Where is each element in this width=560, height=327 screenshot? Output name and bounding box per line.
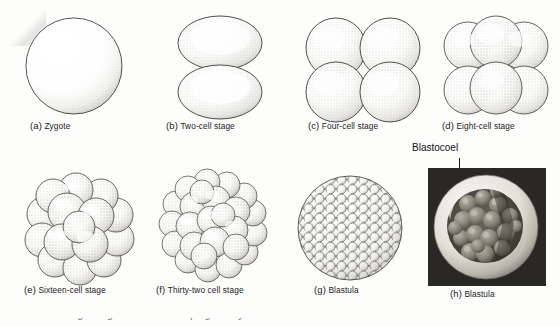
caption-d: (d) Eight-cell stage <box>442 120 515 131</box>
blastula-drawing-illustration <box>292 170 412 290</box>
eight-cell-illustration <box>438 12 558 124</box>
caption-c: (c) Four-cell stage <box>308 120 378 131</box>
panel-g-blastula-drawing: (g) Blastula <box>292 170 412 290</box>
cutoff-body-text: the cleavage stages of the developing em… <box>0 318 560 327</box>
panel-tag-a: (a) <box>30 120 42 131</box>
panel-tag-e: (e) <box>24 284 36 295</box>
panel-tag-h: (h) <box>450 288 462 299</box>
panel-label-e: Sixteen-cell stage <box>38 285 105 295</box>
sixteen-cell-illustration <box>22 172 142 288</box>
caption-b: (b) Two-cell stage <box>166 120 235 131</box>
panel-c-four-cell: (c) Four-cell stage <box>300 12 426 124</box>
caption-h: (h) Blastula <box>450 288 495 299</box>
single-sphere-illustration <box>18 12 138 124</box>
panel-tag-f: (f) <box>156 284 165 295</box>
micrograph-image <box>428 168 546 286</box>
panel-tag-g: (g) <box>314 284 326 295</box>
caption-a: (a) Zygote <box>30 120 70 131</box>
cleavage-stages-figure: (a) Zygote (b) Two-cell stage <box>0 0 560 327</box>
two-cell-illustration <box>162 12 282 124</box>
panel-tag-d: (d) <box>442 120 454 131</box>
panel-label-c: Four-cell stage <box>322 121 378 131</box>
panel-d-eight-cell: (d) Eight-cell stage <box>438 12 558 124</box>
panel-tag-b: (b) <box>166 120 178 131</box>
cutoff-body-text-line: the cleavage stages of the developing em… <box>28 318 431 320</box>
thirtytwo-cell-illustration <box>150 168 280 288</box>
panel-a-zygote: (a) Zygote <box>18 12 138 124</box>
panel-tag-c: (c) <box>308 120 319 131</box>
panel-h-blastula-micrograph: (h) Blastula <box>428 168 554 290</box>
caption-f: (f) Thirty-two cell stage <box>156 284 244 295</box>
panel-f-thirtytwo-cell: (f) Thirty-two cell stage <box>150 168 280 288</box>
panel-label-a: Zygote <box>44 121 70 131</box>
caption-e: (e) Sixteen-cell stage <box>24 284 106 295</box>
panel-b-two-cell: (b) Two-cell stage <box>162 12 282 124</box>
caption-g: (g) Blastula <box>314 284 359 295</box>
panel-label-f: Thirty-two cell stage <box>168 285 244 295</box>
panel-label-g: Blastula <box>328 285 358 295</box>
blastocoel-label: Blastocoel <box>412 142 458 153</box>
four-cell-illustration <box>300 12 426 124</box>
blastula-micrograph-photo <box>428 168 546 286</box>
panel-label-b: Two-cell stage <box>180 121 234 131</box>
panel-label-h: Blastula <box>464 289 494 299</box>
panel-e-sixteen-cell: (e) Sixteen-cell stage <box>22 172 142 288</box>
panel-label-d: Eight-cell stage <box>456 121 514 131</box>
